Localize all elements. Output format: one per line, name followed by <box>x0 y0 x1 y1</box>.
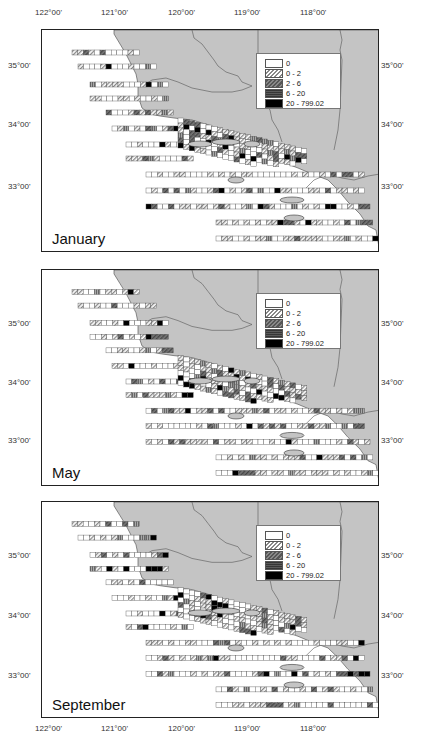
transect-cell <box>224 188 230 193</box>
transect-cell <box>84 64 90 69</box>
transect-cell <box>157 553 163 558</box>
transect-cell <box>264 640 270 645</box>
transect-cell <box>180 656 186 661</box>
transect-cell <box>224 204 230 209</box>
transect-cell <box>107 566 113 571</box>
transect-cell <box>311 470 317 475</box>
transect-cell <box>286 671 292 676</box>
transect-cell <box>283 702 289 707</box>
transect-cell <box>342 204 348 209</box>
transect-cell <box>132 379 138 384</box>
y-tick-label: 35°00' <box>8 551 31 560</box>
transect-cell <box>240 396 246 401</box>
transect-cell <box>178 128 184 133</box>
transect-cell <box>348 204 354 209</box>
transect-cell <box>362 455 368 460</box>
transect-cell <box>297 188 303 193</box>
transect-cell <box>320 671 326 676</box>
transect-cell <box>188 156 194 161</box>
transect-cell <box>273 147 279 152</box>
transect-cell <box>90 553 96 558</box>
transect-cell <box>129 363 135 368</box>
legend-swatch <box>265 79 283 88</box>
y-tick-label: 33°00' <box>381 182 404 191</box>
transect-cell <box>353 408 359 413</box>
transect-cell <box>171 379 177 384</box>
transect-cell <box>223 599 229 604</box>
transect-cell <box>202 204 208 209</box>
y-tick-label: 33°00' <box>381 671 404 680</box>
transect-cell <box>196 424 202 429</box>
transect-cell <box>301 628 307 633</box>
transect-cell <box>178 371 184 376</box>
transect-cell <box>278 236 284 241</box>
transect-cell <box>279 385 285 390</box>
transect-cell <box>300 236 306 241</box>
transect-cell <box>132 625 138 630</box>
legend-entry: 0 - 2 <box>265 540 340 550</box>
transect-cell <box>152 640 158 645</box>
transect-cell <box>206 594 212 599</box>
transect-cell <box>224 656 230 661</box>
transect-cell <box>245 387 251 392</box>
transect-cell <box>325 424 331 429</box>
island <box>284 450 304 456</box>
transect-cell <box>317 455 323 460</box>
transect-cell <box>311 455 317 460</box>
transect-cell <box>256 148 262 153</box>
transect-cell <box>101 96 107 101</box>
transect-cell <box>129 321 135 326</box>
transect-cell <box>152 656 158 661</box>
transect-cell <box>236 408 242 413</box>
transect-cell <box>219 204 225 209</box>
transect-cell <box>280 188 286 193</box>
transect-cell <box>240 148 246 153</box>
transect-cell <box>117 580 123 585</box>
transect-cell <box>195 360 201 365</box>
transect-cell <box>325 172 331 177</box>
transect-cell <box>217 617 223 622</box>
transect-cell <box>185 671 191 676</box>
transect-cell <box>212 389 218 394</box>
transect-cell <box>106 289 112 294</box>
transect-cell <box>123 64 129 69</box>
transect-cell <box>134 126 140 131</box>
x-tick-label: 121°00' <box>101 724 128 733</box>
transect-cell <box>182 156 188 161</box>
transect-cell <box>247 439 253 444</box>
transect-cell <box>148 393 154 398</box>
transect-cell <box>250 702 256 707</box>
transect-cell <box>157 408 163 413</box>
transect-cell <box>345 470 351 475</box>
transect-cell <box>196 640 202 645</box>
transect-cell <box>146 363 152 368</box>
transect-cell <box>245 629 251 634</box>
transect-cell <box>154 611 160 616</box>
transect-cell <box>128 50 134 55</box>
transect-cell <box>118 126 124 131</box>
transect-cell <box>152 553 158 558</box>
transect-cell <box>227 702 233 707</box>
transect-cell <box>262 613 268 618</box>
transect-cell <box>191 172 197 177</box>
transect-cell <box>174 188 180 193</box>
transect-cell <box>252 640 258 645</box>
transect-cell <box>78 50 84 55</box>
transect-cell <box>238 220 244 225</box>
transect-cell <box>128 110 134 115</box>
transect-cell <box>286 424 292 429</box>
transect-cell <box>339 702 345 707</box>
transect-cell <box>317 702 323 707</box>
transect-cell <box>189 363 195 368</box>
transect-cell <box>273 621 279 626</box>
transect-cell <box>247 172 253 177</box>
transect-cell <box>251 373 257 378</box>
legend-swatch <box>265 309 283 318</box>
transect-cell <box>234 389 240 394</box>
transect-cell <box>284 382 290 387</box>
transect-cell <box>101 553 107 558</box>
transect-cell <box>261 220 267 225</box>
transect-cell <box>228 131 234 136</box>
transect-cell <box>146 439 152 444</box>
transect-cell <box>157 566 163 571</box>
